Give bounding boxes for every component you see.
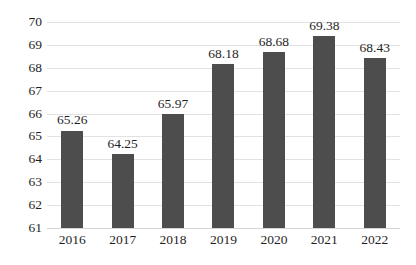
- y-axis-tick-label: 66: [8, 107, 42, 121]
- y-axis: 70696867666564636261: [0, 22, 42, 228]
- y-axis-tick-label: 70: [8, 15, 42, 29]
- plot-area: 65.2664.2565.9768.1868.6869.3868.43: [47, 22, 400, 228]
- bar[interactable]: [61, 131, 83, 229]
- y-axis-tick-label: 68: [8, 61, 42, 75]
- bar-slot: 68.43: [350, 22, 400, 228]
- y-axis-tick-label: 61: [8, 221, 42, 235]
- bar-chart: 70696867666564636261 65.2664.2565.9768.1…: [0, 0, 416, 265]
- bar-value-label: 64.25: [107, 137, 137, 151]
- bar-slot: 64.25: [97, 22, 147, 228]
- bar[interactable]: [212, 64, 234, 228]
- y-axis-tick-label: 69: [8, 38, 42, 52]
- bar[interactable]: [112, 154, 134, 228]
- bar-slot: 69.38: [299, 22, 349, 228]
- x-axis-tick-label: 2018: [148, 233, 198, 247]
- bar[interactable]: [162, 114, 184, 228]
- y-axis-tick-label: 62: [8, 198, 42, 212]
- bar-value-label: 65.97: [158, 97, 188, 111]
- bar-slot: 68.18: [198, 22, 248, 228]
- bar-value-label: 69.38: [309, 19, 339, 33]
- y-axis-tick-label: 67: [8, 84, 42, 98]
- bar-value-label: 68.43: [360, 41, 390, 55]
- gridline: [47, 228, 400, 229]
- y-axis-tick-label: 65: [8, 130, 42, 144]
- y-axis-tick-label: 64: [8, 153, 42, 167]
- bar[interactable]: [364, 58, 386, 228]
- x-axis-tick-label: 2021: [299, 233, 349, 247]
- x-axis-tick-label: 2020: [249, 233, 299, 247]
- y-axis-tick-label: 63: [8, 175, 42, 189]
- bar-slot: 65.26: [47, 22, 97, 228]
- x-axis-tick-label: 2016: [47, 233, 97, 247]
- x-axis-tick-label: 2019: [198, 233, 248, 247]
- x-axis-tick-label: 2017: [97, 233, 147, 247]
- bar-value-label: 68.68: [259, 35, 289, 49]
- bar-value-label: 68.18: [208, 47, 238, 61]
- bar[interactable]: [263, 52, 285, 228]
- x-axis-tick-label: 2022: [350, 233, 400, 247]
- bar-slot: 65.97: [148, 22, 198, 228]
- bar-slot: 68.68: [249, 22, 299, 228]
- bar[interactable]: [313, 36, 335, 228]
- x-axis: 2016201720182019202020212022: [47, 233, 400, 255]
- bar-value-label: 65.26: [57, 113, 87, 127]
